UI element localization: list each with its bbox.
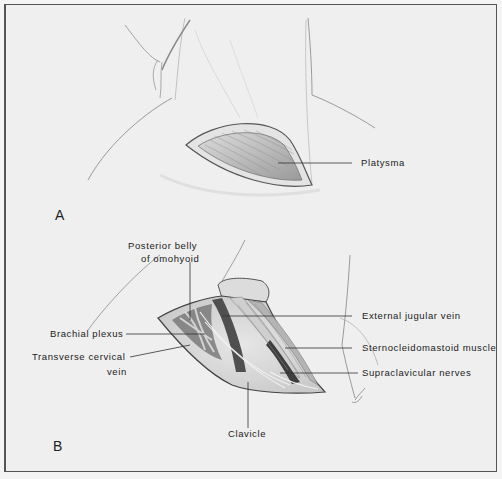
panel-a-drawing [88, 18, 375, 195]
label-supraclavicular-nerves: Supraclavicular nerves [362, 367, 471, 379]
label-vein: vein [107, 366, 127, 378]
panel-b-letter: B [53, 438, 62, 454]
panel-b-drawing [88, 240, 378, 428]
label-sternocleidomastoid-muscle: Sternocleidomastoid muscle [362, 342, 496, 354]
label-of-omohyoid: of omohyoid [141, 253, 199, 265]
panel-a-letter: A [55, 207, 64, 223]
label-platysma: Platysma [361, 157, 405, 169]
label-transverse-cervical: Transverse cervical [32, 351, 125, 363]
label-brachial-plexus: Brachial plexus [50, 328, 123, 340]
anatomical-illustration [0, 0, 502, 479]
label-clavicle: Clavicle [228, 428, 266, 440]
label-posterior-belly: Posterior belly [128, 240, 197, 252]
label-external-jugular-vein: External jugular vein [362, 310, 461, 322]
